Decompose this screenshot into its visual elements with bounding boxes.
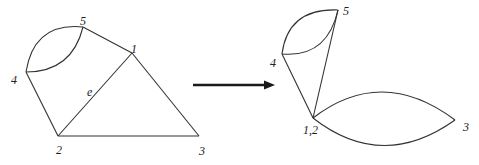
vertex-label-5: 5 (80, 15, 86, 27)
left-graph (26, 27, 199, 136)
edge-12-3-lower (313, 118, 455, 146)
vertex-label-3-right: 3 (463, 121, 469, 133)
vertex-label-4-right: 4 (270, 57, 276, 69)
vertex-label-4: 4 (11, 74, 17, 86)
edge-label-e: e (87, 86, 92, 98)
vertex-label-1: 1 (131, 43, 137, 55)
contraction-arrow (193, 81, 275, 90)
vertex-label-1-2-right: 1,2 (303, 124, 318, 136)
diagram-canvas: 5 1 4 2 3 e 5 4 1,2 3 (0, 0, 479, 165)
edge-1-3 (132, 53, 199, 136)
edge-4-12 (282, 54, 313, 118)
edge-5-1 (83, 27, 132, 53)
vertex-label-2: 2 (56, 144, 62, 156)
diagram-svg (0, 0, 479, 165)
vertex-label-3: 3 (199, 145, 205, 157)
arrow-head-icon (264, 81, 275, 90)
vertex-label-5-right: 5 (343, 5, 349, 17)
edge-e-2-1 (58, 53, 132, 136)
edge-4-5-lower (26, 27, 83, 72)
edge-4-2 (26, 72, 58, 136)
edge-5-12 (313, 10, 338, 118)
edge-12-3-upper (313, 92, 455, 120)
edge-4-5-upper (26, 27, 83, 72)
